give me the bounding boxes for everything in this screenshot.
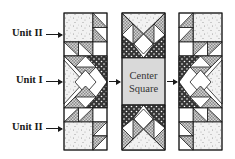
arrow-unit-i [46, 81, 62, 82]
label-unit-ii-top: Unit II [12, 27, 43, 38]
label-unit-i: Unit I [16, 74, 43, 85]
center-square-label-line2: Square [122, 83, 165, 95]
arrow-center-to-right [167, 81, 177, 82]
arrow-left-to-center [109, 81, 120, 82]
label-unit-ii-bottom: Unit II [12, 121, 43, 132]
arrow-unit-ii-bottom [46, 128, 62, 129]
left-strip [64, 13, 107, 150]
arrow-unit-ii-top [46, 34, 62, 35]
right-strip [179, 13, 222, 150]
center-square-label-line1: Center [122, 70, 165, 82]
